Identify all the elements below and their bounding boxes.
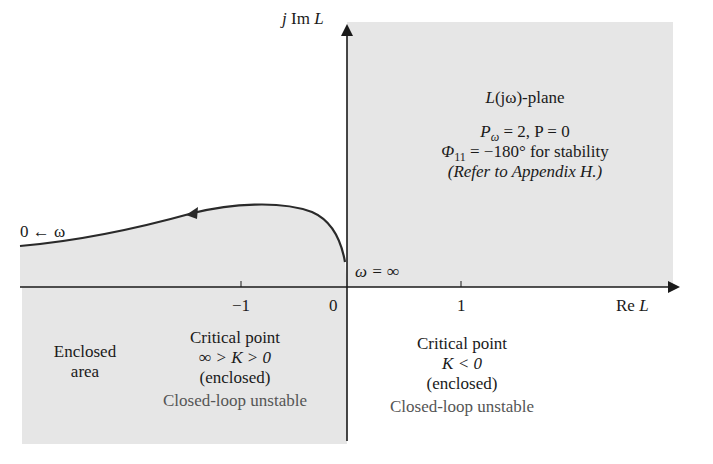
tick-label-minus-1: −1 <box>232 296 250 316</box>
enclosed-area-label: Enclosed area <box>30 342 140 382</box>
right-critical-block: Critical point K < 0 (enclosed) Closed-l… <box>372 334 552 417</box>
left-critical-condition: ∞ > K > 0 <box>145 348 325 368</box>
plane-info-line3: (Refer to Appendix H.) <box>420 162 630 182</box>
line1-rest: = 2, P = 0 <box>499 122 570 141</box>
plane-label: L(jω)-plane <box>420 88 630 108</box>
shaded-enclosed-under-curve <box>20 205 347 287</box>
left-critical-stability: Closed-loop unstable <box>145 391 325 411</box>
real-axis-arrow-icon <box>668 281 680 293</box>
left-critical-block: Critical point ∞ > K > 0 (enclosed) Clos… <box>145 328 325 411</box>
left-critical-title: Critical point <box>145 328 325 348</box>
line2-phi: Φ <box>441 142 454 161</box>
real-axis-label: Re L <box>616 296 649 316</box>
enclosed-area-line2: area <box>30 362 140 382</box>
imag-axis-arrow-icon <box>341 24 353 36</box>
plane-info-line1: Pω = 2, P = 0 <box>420 122 630 142</box>
plane-label-L: L <box>485 88 494 107</box>
left-critical-status: (enclosed) <box>145 368 325 388</box>
line2-rest: = −180° for stability <box>466 142 609 161</box>
right-critical-title: Critical point <box>372 334 552 354</box>
enclosed-area-line1: Enclosed <box>30 342 140 362</box>
curve-end-label: ω = ∞ <box>355 262 399 282</box>
plane-info: L(jω)-plane Pω = 2, P = 0 Φ11 = −180° fo… <box>420 88 630 182</box>
plane-info-line2: Φ11 = −180° for stability <box>420 142 630 162</box>
tick-label-1: 1 <box>457 296 466 316</box>
imag-axis-label: jj Im Im L <box>282 9 324 29</box>
tick-label-0: 0 <box>329 296 338 316</box>
right-critical-stability: Closed-loop unstable <box>372 397 552 417</box>
line1-P: P <box>480 122 490 141</box>
imag-axis-label-var: L <box>314 9 323 28</box>
right-critical-condition: K < 0 <box>372 354 552 374</box>
curve-start-label: 0 ← ω <box>20 222 65 242</box>
real-axis-label-var: L <box>639 296 648 315</box>
nyquist-plot <box>0 0 713 464</box>
plane-label-rest: (jω)-plane <box>495 88 565 107</box>
right-critical-status: (enclosed) <box>372 374 552 394</box>
